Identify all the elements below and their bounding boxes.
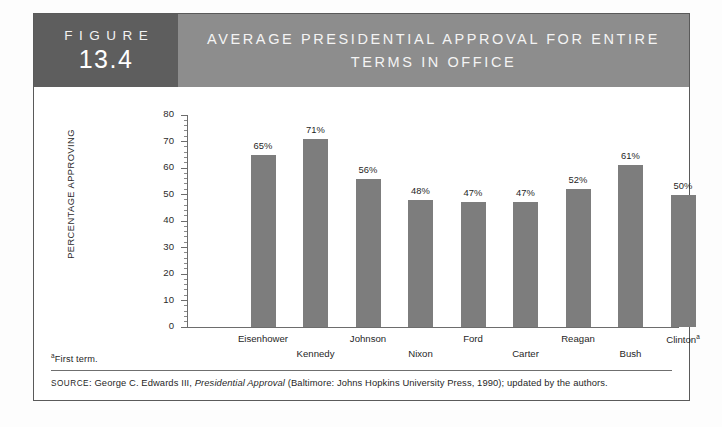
figure-title-line-1: AVERAGE PRESIDENTIAL APPROVAL FOR ENTIRE (207, 28, 660, 50)
x-axis-line (187, 327, 679, 328)
bar-value-label: 56% (359, 164, 378, 175)
bar: 52% (566, 189, 591, 327)
bar-value-label: 50% (674, 180, 693, 191)
bar-rect (461, 202, 486, 327)
bar-rect (566, 189, 591, 327)
footnote-text: First term. (55, 354, 98, 364)
x-category-label: Reagan (561, 333, 595, 344)
source-text-1: : George C. Edwards III, (89, 377, 195, 388)
x-category-footnote-marker: a (696, 333, 700, 340)
bar-rect (671, 195, 696, 328)
bar-rect (618, 165, 643, 327)
figure-title: AVERAGE PRESIDENTIAL APPROVAL FOR ENTIRE… (178, 14, 689, 87)
figure-panel: FIGURE 13.4 AVERAGE PRESIDENTIAL APPROVA… (33, 13, 690, 401)
x-category-label: Johnson (350, 333, 386, 344)
bar: 65% (251, 155, 276, 327)
bar-value-label: 48% (411, 185, 430, 196)
x-category-label: Ford (463, 333, 483, 344)
source-line: SOURCE: George C. Edwards III, President… (51, 377, 672, 390)
bar: 47% (461, 202, 486, 327)
x-category-label: Eisenhower (238, 333, 288, 344)
figure-number-block: FIGURE 13.4 (34, 14, 178, 87)
figure-label: FIGURE (58, 29, 155, 43)
bar-value-label: 47% (516, 187, 535, 198)
bar-value-label: 52% (569, 174, 588, 185)
source-text-2: (Baltimore: Johns Hopkins University Pre… (285, 377, 608, 388)
bar: 50% (671, 195, 696, 328)
bar-rect (408, 200, 433, 327)
x-category-label: Clintona (666, 333, 699, 345)
figure-container: FIGURE 13.4 AVERAGE PRESIDENTIAL APPROVA… (0, 0, 722, 427)
figure-number: 13.4 (79, 47, 134, 72)
bars-layer: 65%71%56%48%47%47%52%61%50% (187, 115, 679, 327)
footnote: aFirst term. (51, 352, 672, 364)
figure-title-line-2: TERMS IN OFFICE (351, 51, 516, 73)
source-title: Presidential Approval (195, 377, 285, 388)
bar-rect (356, 179, 381, 327)
bar-value-label: 71% (306, 124, 325, 135)
figure-notes: aFirst term. SOURCE: George C. Edwards I… (34, 352, 689, 390)
bar-value-label: 47% (464, 187, 483, 198)
bar-value-label: 61% (621, 150, 640, 161)
bar: 56% (356, 179, 381, 327)
y-axis-title: PERCENTAGE APPROVING (66, 109, 76, 279)
chart-plot-area: PERCENTAGE APPROVING 01020304050607080 6… (34, 87, 689, 349)
bar: 71% (303, 139, 328, 327)
bar-rect (251, 155, 276, 327)
figure-header: FIGURE 13.4 AVERAGE PRESIDENTIAL APPROVA… (34, 14, 689, 87)
bar: 47% (513, 202, 538, 327)
bar: 61% (618, 165, 643, 327)
bar-rect (303, 139, 328, 327)
bar-value-label: 65% (254, 140, 273, 151)
bar: 48% (408, 200, 433, 327)
bar-rect (513, 202, 538, 327)
source-prefix: SOURCE (51, 379, 89, 388)
source-divider (51, 370, 672, 371)
